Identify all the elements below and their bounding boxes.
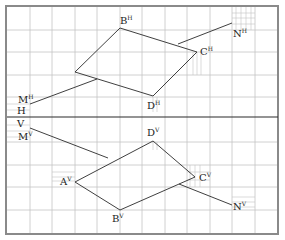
label-a-v: AV <box>59 175 72 187</box>
labels: BH CH DH MH NH H V DV MV AV CV BV NV <box>16 14 247 224</box>
label-n-h: NH <box>233 27 247 39</box>
line-mn-h <box>30 79 97 104</box>
quad-v <box>75 141 195 210</box>
grid <box>7 7 278 233</box>
axis-label-v: V <box>16 118 25 129</box>
label-d-v: DV <box>147 126 160 138</box>
projection-diagram: BH CH DH MH NH H V DV MV AV CV BV NV <box>0 0 285 240</box>
line-mn-v <box>30 128 108 158</box>
construction-lines <box>7 7 255 207</box>
label-m-v: MV <box>18 130 33 142</box>
label-d-h: DH <box>147 99 160 111</box>
label-c-h: CH <box>200 45 213 57</box>
quad-h <box>75 28 197 96</box>
label-b-h: BH <box>120 14 133 26</box>
vertical-projection <box>30 128 232 210</box>
axis-label-h: H <box>17 105 26 116</box>
horizontal-projection <box>30 23 232 104</box>
label-b-v: BV <box>112 212 124 224</box>
